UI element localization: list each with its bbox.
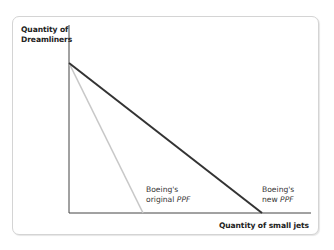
original-ppf-line [69, 63, 143, 213]
original-ppf-label-text: original [146, 195, 177, 204]
y-axis-label: Quantity of Dreamliners [21, 25, 72, 45]
y-axis-label-line1: Quantity of [21, 25, 72, 35]
new-ppf-label-line1: Boeing's [262, 185, 294, 195]
new-ppf-label-em: PPF [280, 195, 294, 204]
y-axis-label-line2: Dreamliners [21, 35, 72, 45]
new-ppf-label-text: new [262, 195, 280, 204]
original-ppf-label-em: PPF [177, 195, 191, 204]
x-axis-label: Quantity of small jets [219, 221, 309, 230]
original-ppf-label: Boeing's original PPF [146, 185, 190, 205]
new-ppf-label: Boeing's new PPF [262, 185, 294, 205]
original-ppf-label-line1: Boeing's [146, 185, 190, 195]
